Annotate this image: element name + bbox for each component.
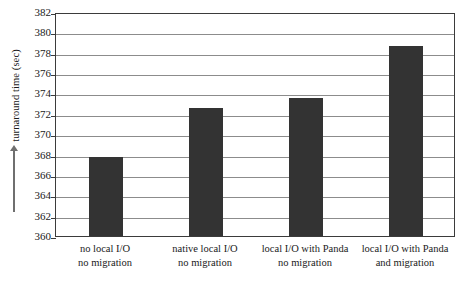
y-axis-tick-mark xyxy=(51,136,56,137)
y-axis-tick-mark xyxy=(51,218,56,219)
y-axis-tick-label: 360 xyxy=(5,230,51,242)
bar xyxy=(189,108,223,236)
y-axis-tick-label: 370 xyxy=(5,128,51,140)
bar xyxy=(289,98,323,236)
bar-chart: turnaround time (sec) 382380378376374372… xyxy=(0,0,468,288)
y-axis-tick-mark xyxy=(51,238,56,239)
bar xyxy=(389,46,423,236)
x-axis-tick-label-line: local I/O with Panda xyxy=(355,242,455,256)
y-axis-tick-label: 374 xyxy=(5,87,51,99)
x-axis-tick-label-line: no local I/O xyxy=(55,242,155,256)
y-axis-tick-label: 366 xyxy=(5,168,51,180)
y-axis-tick-label: 380 xyxy=(5,26,51,38)
x-axis-tick-label: local I/O with Pandaand migration xyxy=(355,242,455,269)
bar xyxy=(89,157,123,236)
x-axis-tick-label: native local I/Ono migration xyxy=(155,242,255,269)
x-axis-tick-label-line: and migration xyxy=(355,256,455,270)
y-axis-tick-label: 376 xyxy=(5,67,51,79)
plot-area xyxy=(55,13,455,237)
y-axis-tick-label: 372 xyxy=(5,107,51,119)
x-axis-tick-label: no local I/Ono migration xyxy=(55,242,155,269)
y-axis-tick-mark xyxy=(51,157,56,158)
y-axis-tick-label: 362 xyxy=(5,209,51,221)
y-axis-tick-mark xyxy=(51,95,56,96)
x-axis-tick-label: local I/O with Pandano migration xyxy=(255,242,355,269)
y-axis-tick-label: 368 xyxy=(5,148,51,160)
y-axis-tick-labels: 382380378376374372370368366364362360 xyxy=(0,13,51,237)
y-axis-tick-mark xyxy=(51,75,56,76)
x-axis-tick-label-line: no migration xyxy=(155,256,255,270)
y-axis-tick-mark xyxy=(51,116,56,117)
x-axis-tick-label-line: local I/O with Panda xyxy=(255,242,355,256)
y-axis-tick-label: 364 xyxy=(5,189,51,201)
x-axis-tick-label-line: native local I/O xyxy=(155,242,255,256)
y-axis-tick-mark xyxy=(51,34,56,35)
y-axis-tick-mark xyxy=(51,14,56,15)
gridline xyxy=(56,34,454,35)
x-axis-tick-label-line: no migration xyxy=(55,256,155,270)
y-axis-tick-label: 378 xyxy=(5,46,51,58)
y-axis-tick-mark xyxy=(51,55,56,56)
y-axis-tick-label: 382 xyxy=(5,6,51,18)
y-axis-tick-mark xyxy=(51,197,56,198)
y-axis-tick-mark xyxy=(51,177,56,178)
x-axis-tick-labels: no local I/Ono migrationnative local I/O… xyxy=(55,242,455,282)
x-axis-tick-label-line: no migration xyxy=(255,256,355,270)
